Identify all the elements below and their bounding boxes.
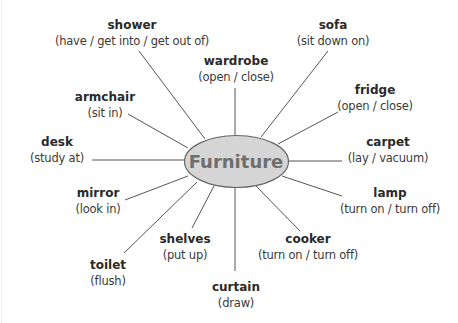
node-word: sofa xyxy=(297,18,370,33)
node-verbs: (have / get into / get out of) xyxy=(55,33,209,49)
node-toilet: toilet (flush) xyxy=(90,258,126,289)
node-word: carpet xyxy=(348,135,428,150)
node-desk: desk (study at) xyxy=(30,135,84,166)
connector-mirror xyxy=(125,176,188,200)
node-word: curtain xyxy=(212,280,260,295)
node-cooker: cooker (turn on / turn off) xyxy=(258,232,358,263)
node-verbs: (draw) xyxy=(212,295,260,311)
connector-armchair xyxy=(128,114,188,148)
furniture-mind-map: Furniture shower (have / get into / get … xyxy=(0,0,458,323)
node-verbs: (study at) xyxy=(30,150,84,166)
node-verbs: (sit in) xyxy=(75,105,135,121)
connector-fridge xyxy=(278,112,338,144)
node-word: desk xyxy=(30,135,84,150)
node-shelves: shelves (put up) xyxy=(159,232,210,263)
node-verbs: (flush) xyxy=(90,273,126,289)
node-lamp: lamp (turn on / turn off) xyxy=(340,186,440,217)
node-verbs: (turn on / turn off) xyxy=(340,201,440,217)
connector-shelves xyxy=(192,186,214,228)
node-word: shower xyxy=(55,18,209,33)
node-armchair: armchair (sit in) xyxy=(75,90,135,121)
node-verbs: (open / close) xyxy=(337,98,413,114)
node-shower: shower (have / get into / get out of) xyxy=(55,18,209,49)
node-carpet: carpet (lay / vacuum) xyxy=(348,135,428,166)
node-verbs: (look in) xyxy=(75,201,120,217)
node-verbs: (put up) xyxy=(159,247,210,263)
node-verbs: (open / close) xyxy=(198,69,274,85)
node-word: shelves xyxy=(159,232,210,247)
node-mirror: mirror (look in) xyxy=(75,186,120,217)
node-word: fridge xyxy=(337,83,413,98)
node-verbs: (lay / vacuum) xyxy=(348,150,428,166)
node-verbs: (turn on / turn off) xyxy=(258,247,358,263)
node-word: wardrobe xyxy=(198,54,274,69)
connector-cooker xyxy=(256,186,300,231)
node-sofa: sofa (sit down on) xyxy=(297,18,370,49)
node-word: armchair xyxy=(75,90,135,105)
node-word: lamp xyxy=(340,186,440,201)
node-word: toilet xyxy=(90,258,126,273)
node-word: cooker xyxy=(258,232,358,247)
node-verbs: (sit down on) xyxy=(297,33,370,49)
node-curtain: curtain (draw) xyxy=(212,280,260,311)
node-fridge: fridge (open / close) xyxy=(337,83,413,114)
node-wardrobe: wardrobe (open / close) xyxy=(198,54,274,85)
connector-lamp xyxy=(282,176,342,196)
node-word: mirror xyxy=(75,186,120,201)
center-label: Furniture xyxy=(189,151,284,172)
